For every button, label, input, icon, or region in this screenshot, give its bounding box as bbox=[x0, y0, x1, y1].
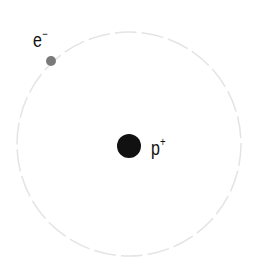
electron-symbol: e bbox=[33, 29, 42, 51]
proton-charge: + bbox=[160, 135, 166, 149]
electron-label: e− bbox=[33, 30, 48, 50]
electron-particle bbox=[46, 56, 56, 66]
proton-symbol: p bbox=[151, 137, 160, 159]
electron-charge: − bbox=[42, 27, 48, 41]
proton-label: p+ bbox=[151, 138, 166, 158]
proton-nucleus bbox=[117, 134, 141, 158]
